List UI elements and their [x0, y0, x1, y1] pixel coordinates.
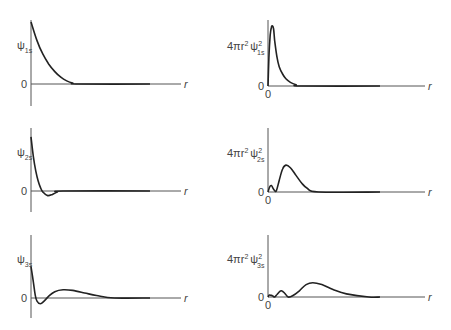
y-axis-label: ψ2s [17, 146, 33, 161]
x-axis-label: r [184, 185, 189, 197]
panel-rdf_1s: r004πr2ψ21s [227, 20, 433, 100]
x-zero-label: 0 [265, 194, 271, 206]
panel-rdf_2s: r004πr2ψ22s [227, 128, 433, 206]
x-axis-label: r [184, 292, 189, 304]
y-zero-label: 0 [21, 78, 27, 90]
x-axis-label: r [428, 80, 433, 92]
y-axis-label: 4πr2ψ23s [227, 253, 265, 269]
panel-psi_2s: r0ψ2s [17, 128, 189, 212]
series-line-psi_1s [31, 22, 150, 84]
panel-rdf_3s: r004πr2ψ23s [227, 235, 433, 311]
series-line-rdf_1s [268, 26, 380, 86]
orbital-plots: r0ψ1sr004πr2ψ21sr0ψ2sr004πr2ψ22sr0ψ3sr00… [0, 0, 451, 330]
y-axis-label: ψ3s [17, 253, 33, 268]
y-zero-label: 0 [258, 186, 264, 198]
y-axis-label: 4πr2ψ21s [227, 40, 265, 56]
y-zero-label: 0 [258, 80, 264, 92]
panel-psi_1s: r0ψ1s [17, 20, 189, 106]
x-zero-label: 0 [265, 88, 271, 100]
y-axis-label: ψ1s [17, 39, 33, 54]
y-zero-label: 0 [21, 292, 27, 304]
x-axis-label: r [428, 186, 433, 198]
x-axis-label: r [428, 291, 433, 303]
series-line-rdf_2s [268, 165, 380, 192]
x-axis-label: r [184, 78, 189, 90]
y-zero-label: 0 [21, 185, 27, 197]
series-line-rdf_3s [268, 283, 380, 298]
y-axis-label: 4πr2ψ22s [227, 147, 265, 163]
x-zero-label: 0 [265, 299, 271, 311]
series-line-psi_2s [31, 137, 150, 196]
y-zero-label: 0 [258, 291, 264, 303]
panel-psi_3s: r0ψ3s [17, 235, 189, 318]
